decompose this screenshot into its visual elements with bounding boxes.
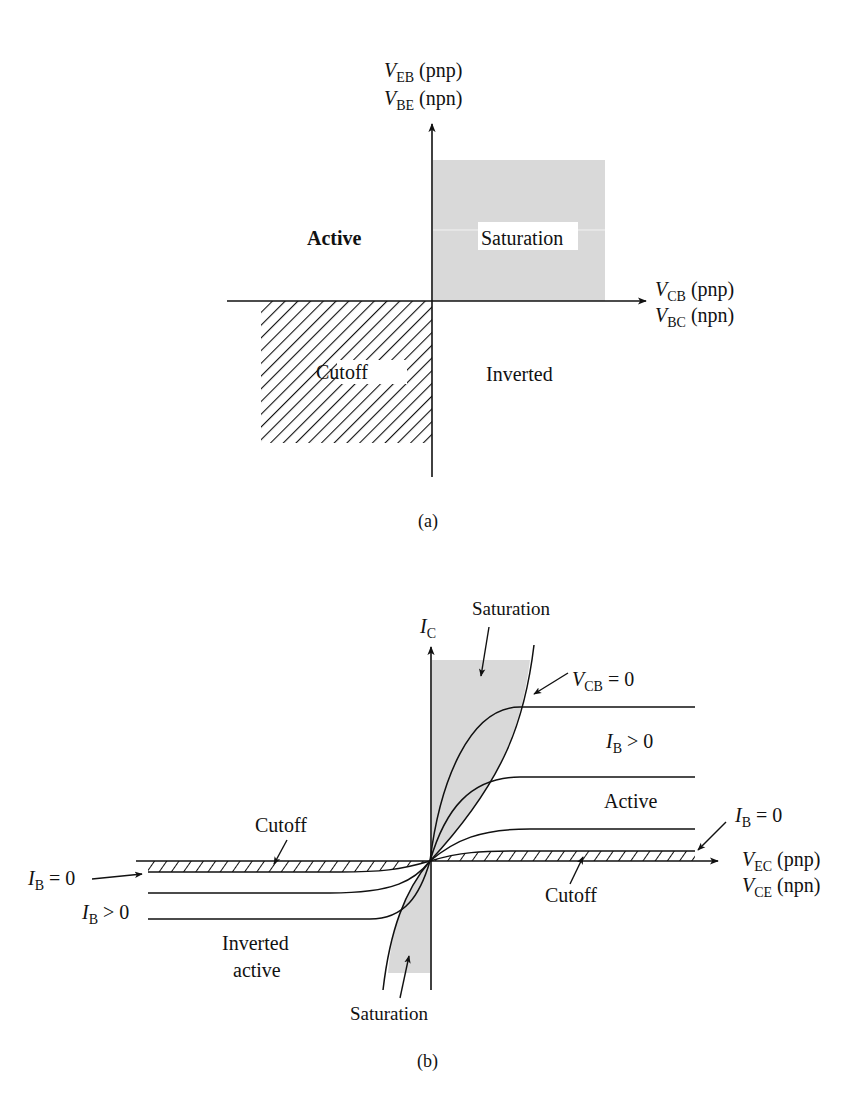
inverted-active-label-line2: active (233, 959, 281, 981)
vce-axis-label-line2: VCE (npn) (742, 874, 820, 900)
ib-zero-left-arrow (92, 874, 142, 879)
saturation-region-upper-shade (430, 660, 530, 861)
region-saturation-label: Saturation (481, 227, 563, 249)
ib-positive-right-label: IB > 0 (605, 730, 653, 756)
inverted-active-label-line1: Inverted (222, 932, 289, 954)
panel-a: VEB (pnp) VBE (npn) VCB (pnp) VBC (npn) … (227, 59, 734, 532)
x-axis-a-label-line2: VBC (npn) (655, 304, 734, 330)
saturation-bottom-label: Saturation (350, 1003, 429, 1024)
active-label: Active (604, 790, 657, 812)
bjt-operating-regions-figure: VEB (pnp) VBE (npn) VCB (pnp) VBC (npn) … (0, 0, 866, 1099)
ib-zero-left-label: IB = 0 (27, 867, 75, 893)
panel-b: IC Saturation VCB = 0 IB > 0 Active IB =… (27, 598, 820, 1072)
saturation-top-label: Saturation (472, 598, 551, 619)
ic-axis-label: IC (419, 615, 436, 641)
x-axis-a-label-line1: VCB (pnp) (655, 278, 734, 304)
caption-a: (a) (418, 511, 438, 532)
vcb-zero-label: VCB = 0 (572, 668, 634, 694)
y-axis-a-label-line2: VBE (npn) (384, 87, 462, 113)
region-inverted-label: Inverted (486, 363, 553, 385)
ib-zero-right-arrow (698, 822, 726, 850)
region-active-label: Active (307, 227, 362, 249)
caption-b: (b) (417, 1051, 438, 1072)
region-cutoff-label: Cutoff (316, 361, 368, 383)
cutoff-left-label: Cutoff (255, 814, 307, 836)
vec-axis-label-line1: VEC (pnp) (742, 848, 820, 874)
ib-positive-left-label: IB > 0 (81, 901, 129, 927)
cutoff-right-label: Cutoff (545, 884, 597, 906)
ib-zero-right-label: IB = 0 (734, 804, 782, 830)
vcb-zero-arrow (534, 673, 568, 694)
y-axis-a-label-line1: VEB (pnp) (384, 59, 462, 85)
